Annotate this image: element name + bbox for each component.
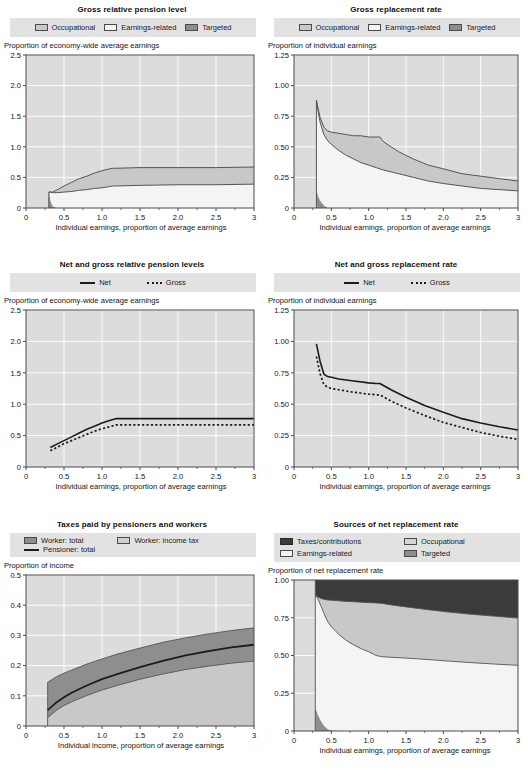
- chart-title: Taxes paid by pensioners and workers: [0, 520, 264, 529]
- y-axis-title: Proportion of net replacement rate: [268, 566, 528, 575]
- svg-text:0.50: 0.50: [274, 651, 289, 660]
- svg-text:3: 3: [516, 472, 520, 481]
- chart-svg: 00.51.01.52.02.5300.51.01.52.02.5: [4, 306, 260, 482]
- legend-label: Earnings-related: [121, 23, 176, 32]
- legend-swatch-targeted-icon: [449, 24, 462, 31]
- legend-item-net[interactable]: Net: [80, 278, 111, 287]
- plot-area: 00.51.01.52.02.5300.10.20.30.40.5: [4, 571, 264, 741]
- chart-svg: 00.51.01.52.02.5300.250.500.751.001.25: [268, 306, 524, 482]
- svg-text:1.0: 1.0: [97, 731, 108, 740]
- svg-text:1.00: 1.00: [274, 81, 289, 90]
- x-axis-title: Individual earnings, proportion of avera…: [0, 482, 264, 491]
- svg-text:0.25: 0.25: [274, 173, 289, 182]
- legend-label: Pensioner: total: [43, 545, 95, 554]
- legend-label: Net: [363, 278, 375, 287]
- svg-text:2.5: 2.5: [475, 736, 486, 745]
- svg-text:0.5: 0.5: [326, 736, 337, 745]
- legend-line-net-icon: [344, 282, 359, 284]
- chart-title: Net and gross relative pension levels: [0, 260, 264, 269]
- svg-text:0: 0: [292, 736, 296, 745]
- y-axis-title: Proportion of economy-wide average earni…: [4, 296, 264, 305]
- svg-text:0.75: 0.75: [274, 112, 289, 121]
- legend-item-gross[interactable]: Gross: [147, 278, 186, 287]
- svg-text:2.0: 2.0: [10, 81, 21, 90]
- legend-item-occupational[interactable]: Occupational: [404, 537, 514, 546]
- svg-text:2.0: 2.0: [438, 472, 449, 481]
- svg-text:0.75: 0.75: [274, 614, 289, 623]
- chart-svg: 00.51.01.52.02.5300.250.500.751.001.25: [268, 51, 524, 223]
- svg-text:0.5: 0.5: [10, 571, 21, 580]
- svg-text:2.0: 2.0: [173, 731, 184, 740]
- svg-text:1.5: 1.5: [401, 736, 412, 745]
- panel-net-and-gross-relative-pension-levels: Net and gross relative pension levels Ne…: [0, 255, 264, 515]
- legend-swatch-earnings-related-icon: [368, 24, 381, 31]
- svg-text:0: 0: [285, 727, 289, 736]
- svg-text:1.0: 1.0: [10, 143, 21, 152]
- legend-label: Occupational: [52, 23, 96, 32]
- y-axis-title: Proportion of economy-wide average earni…: [4, 41, 264, 50]
- x-axis-title: Individual earnings, proportion of avera…: [264, 746, 528, 755]
- legend-label: Worker: total: [41, 536, 83, 545]
- legend-item-targeted[interactable]: Targeted: [185, 23, 231, 32]
- chart-svg: 00.51.01.52.02.5300.51.01.52.02.5: [4, 51, 260, 223]
- panel-taxes-paid-by-pensioners-and-workers: Taxes paid by pensioners and workers Wor…: [0, 515, 264, 780]
- svg-text:2.5: 2.5: [475, 213, 486, 222]
- legend-item-occupational[interactable]: Occupational: [35, 23, 96, 32]
- svg-text:1.25: 1.25: [274, 306, 289, 315]
- legend-swatch-earnings-related-icon: [104, 24, 117, 31]
- legend-item-earnings-related[interactable]: Earnings-related: [280, 549, 398, 558]
- chart-svg: 00.51.01.52.02.5300.250.500.751.00: [268, 576, 524, 746]
- svg-text:1.5: 1.5: [135, 472, 146, 481]
- svg-text:2.5: 2.5: [10, 51, 21, 60]
- svg-text:1.0: 1.0: [363, 736, 374, 745]
- y-axis-title: Proportion of income: [4, 561, 264, 570]
- legend-item-gross[interactable]: Gross: [411, 278, 450, 287]
- svg-text:1.00: 1.00: [274, 576, 289, 585]
- svg-text:2.5: 2.5: [211, 472, 222, 481]
- legend-item-targeted[interactable]: Targeted: [449, 23, 495, 32]
- svg-text:2.5: 2.5: [10, 306, 21, 315]
- svg-text:0.2: 0.2: [10, 661, 21, 670]
- chart-title: Gross relative pension level: [0, 5, 264, 14]
- svg-text:2.5: 2.5: [211, 731, 222, 740]
- svg-text:0.50: 0.50: [274, 143, 289, 152]
- svg-text:0: 0: [292, 213, 296, 222]
- svg-text:0.5: 0.5: [59, 731, 70, 740]
- legend-label: Earnings-related: [297, 549, 352, 558]
- legend-item-net[interactable]: Net: [344, 278, 375, 287]
- legend-item-occupational[interactable]: Occupational: [299, 23, 360, 32]
- legend-item-targeted[interactable]: Targeted: [404, 549, 514, 558]
- legend-item-earnings-related[interactable]: Earnings-related: [104, 23, 176, 32]
- legend-item-worker-total[interactable]: Worker: total: [24, 536, 83, 545]
- svg-text:2.5: 2.5: [475, 472, 486, 481]
- svg-text:0.5: 0.5: [59, 213, 70, 222]
- legend-label: Gross: [430, 278, 450, 287]
- legend-label: Net: [99, 278, 111, 287]
- svg-text:0: 0: [17, 204, 21, 213]
- svg-text:1.0: 1.0: [97, 472, 108, 481]
- legend-swatch-occupational-icon: [404, 538, 417, 545]
- panel-sources-of-net-replacement-rate: Sources of net replacement rate Taxes/co…: [264, 515, 528, 780]
- legend-item-pensioner-total[interactable]: Pensioner: total: [24, 545, 95, 554]
- svg-text:2.0: 2.0: [438, 736, 449, 745]
- svg-text:3: 3: [516, 736, 520, 745]
- svg-text:2.0: 2.0: [10, 337, 21, 346]
- legend-item-worker-income-tax[interactable]: Worker: income tax: [117, 536, 198, 545]
- svg-text:0: 0: [17, 722, 21, 731]
- svg-text:1.5: 1.5: [401, 472, 412, 481]
- svg-text:1.5: 1.5: [10, 112, 21, 121]
- chart-title: Net and gross replacement rate: [264, 260, 528, 269]
- y-axis-title: Proportion of individual earnings: [268, 296, 528, 305]
- legend-swatch-worker-income-tax-icon: [117, 537, 130, 544]
- legend-line-net-icon: [80, 282, 95, 284]
- plot-area: 00.51.01.52.02.5300.250.500.751.001.25: [268, 306, 528, 482]
- legend-label: Earnings-related: [385, 23, 440, 32]
- svg-text:1.5: 1.5: [135, 731, 146, 740]
- x-axis-title: Individual earnings, proportion of avera…: [264, 223, 528, 232]
- svg-text:1.5: 1.5: [10, 369, 21, 378]
- legend-label: Targeted: [421, 549, 450, 558]
- legend-item-taxes-contributions[interactable]: Taxes/contributions: [280, 537, 398, 546]
- svg-text:1.0: 1.0: [10, 400, 21, 409]
- svg-text:0.5: 0.5: [59, 472, 70, 481]
- legend-item-earnings-related[interactable]: Earnings-related: [368, 23, 440, 32]
